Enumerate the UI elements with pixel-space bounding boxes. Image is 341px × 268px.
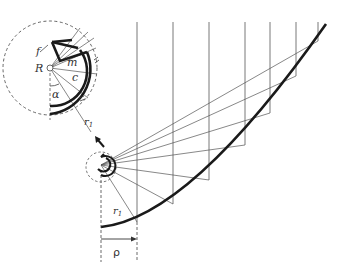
rho-label: ρ [113,246,120,259]
diagram-canvas: ρ r1 R f m c α r1 [0,0,341,268]
m-label: m [67,56,77,69]
r1-main-label: r1 [113,205,122,218]
focus-point [47,65,53,71]
focal-rays [101,41,318,222]
r1-inset-label: r1 [84,116,93,129]
c-label: c [72,71,78,84]
parabola-curve [101,24,326,227]
alpha-label: α [52,88,60,101]
vertical-rays [137,22,318,222]
zoom-arrow [98,140,104,147]
rho-arrowhead-icon [131,237,137,242]
parabolic-reflector-diagram: ρ r1 R f m c α r1 [0,0,341,268]
R-label: R [34,62,43,75]
